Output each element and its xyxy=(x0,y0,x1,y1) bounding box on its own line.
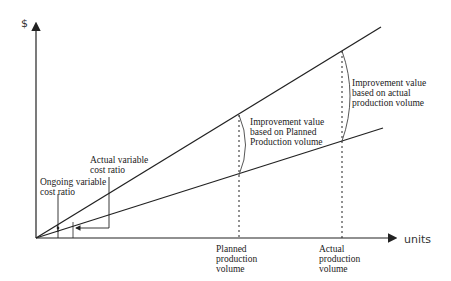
planned-volume-label: Planned production volume xyxy=(216,244,257,274)
planned-improvement-arc xyxy=(239,115,246,175)
x-axis-label: units xyxy=(404,235,431,245)
ongoing-ratio-label: Ongoing variable cost ratio xyxy=(40,177,106,197)
actual-improvement-label: Improvement value based on actual produc… xyxy=(352,78,426,108)
actual-improvement-arc xyxy=(342,51,350,141)
diagram-graphics xyxy=(0,0,451,281)
actual-ratio-label: Actual variable cost ratio xyxy=(90,155,148,175)
actual-volume-label: Actual production volume xyxy=(319,244,360,274)
planned-improvement-label: Improvement value based on Planned Produ… xyxy=(250,117,324,147)
actual-variable-cost-line xyxy=(36,27,381,238)
y-axis-label: $ xyxy=(21,19,28,29)
cost-ratio-diagram: $ units Actual variable cost ratio Ongoi… xyxy=(0,0,451,281)
